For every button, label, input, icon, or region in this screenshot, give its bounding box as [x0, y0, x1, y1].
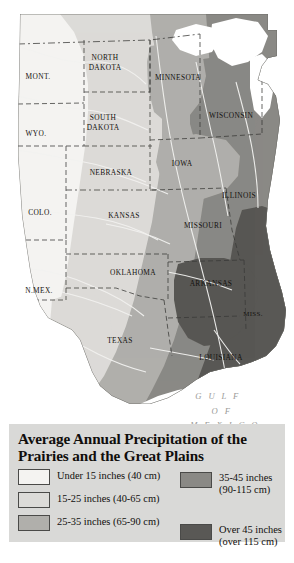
- state-label-north-dakota-line2: DAKOTA: [89, 63, 122, 72]
- map-svg: MONT. NORTH DAKOTA MINNESOTA WYO. SOUTH …: [0, 0, 294, 432]
- state-label-louisiana: LOUISIANA: [199, 353, 243, 362]
- legend-label-15-25: 15-25 inches (40-65 cm): [57, 492, 159, 505]
- state-label-kansas: KANSAS: [108, 211, 140, 220]
- state-label-illinois: ILLINOIS: [222, 191, 256, 200]
- state-label-minnesota: MINNESOTA: [155, 73, 201, 82]
- state-label-arkansas: ARKANSAS: [190, 279, 233, 288]
- state-label-south-dakota-line2: DAKOTA: [87, 123, 120, 132]
- map-area: MONT. NORTH DAKOTA MINNESOTA WYO. SOUTH …: [0, 0, 294, 432]
- state-label-montana: MONT.: [26, 72, 51, 81]
- legend-swatch-over-45: [180, 524, 212, 540]
- state-label-missouri: MISSOURI: [184, 221, 222, 230]
- gulf-label-line2: O F: [212, 406, 233, 416]
- state-label-mississippi: MISS.: [243, 310, 263, 317]
- legend-column-right: 35-45 inches (90-115 cm) Over 45 inches …: [180, 469, 286, 547]
- legend-swatch-25-35: [18, 515, 50, 531]
- legend-swatch-15-25: [18, 492, 50, 508]
- state-label-south-dakota-line1: SOUTH: [90, 113, 117, 122]
- legend-label-under-15: Under 15 inches (40 cm): [57, 469, 160, 482]
- state-label-wisconsin: WISCONSIN: [209, 111, 254, 120]
- legend-item-25-35[interactable]: 25-35 inches (65-90 cm): [18, 515, 180, 531]
- precipitation-map-page: MONT. NORTH DAKOTA MINNESOTA WYO. SOUTH …: [0, 0, 294, 563]
- state-label-wyoming: WYO.: [26, 129, 47, 138]
- state-label-oklahoma: OKLAHOMA: [110, 268, 156, 277]
- legend-label-25-35: 25-35 inches (65-90 cm): [57, 515, 159, 528]
- legend-item-35-45[interactable]: 35-45 inches (90-115 cm): [180, 471, 286, 495]
- legend-item-under-15[interactable]: Under 15 inches (40 cm): [18, 469, 180, 485]
- legend: Under 15 inches (40 cm) 15-25 inches (40…: [18, 469, 286, 547]
- legend-item-over-45[interactable]: Over 45 inches (over 115 cm): [180, 523, 286, 547]
- state-label-nebraska: NEBRASKA: [90, 168, 133, 177]
- legend-label-over-45: Over 45 inches (over 115 cm): [219, 523, 282, 547]
- state-label-north-dakota-line1: NORTH: [92, 53, 119, 62]
- state-label-new-mexico: N.MEX.: [25, 286, 53, 295]
- legend-label-35-45: 35-45 inches (90-115 cm): [219, 471, 272, 495]
- legend-item-15-25[interactable]: 15-25 inches (40-65 cm): [18, 492, 180, 508]
- map-title: Average Annual Precipitation of the Prai…: [18, 431, 280, 464]
- legend-column-left: Under 15 inches (40 cm) 15-25 inches (40…: [18, 469, 180, 547]
- state-label-colorado: COLO.: [28, 208, 52, 217]
- legend-swatch-under-15: [18, 469, 50, 485]
- map-title-line2: Prairies and the Great Plains: [18, 448, 280, 465]
- state-label-texas: TEXAS: [107, 336, 133, 345]
- state-label-iowa: IOWA: [172, 159, 193, 168]
- gulf-label-line1: G U L F: [195, 391, 241, 401]
- map-title-line1: Average Annual Precipitation of the: [18, 431, 280, 448]
- legend-swatch-35-45: [180, 472, 212, 488]
